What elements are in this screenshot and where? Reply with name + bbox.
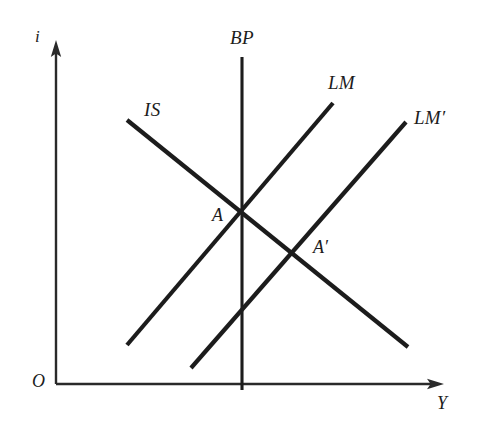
curve-label-bp: BP bbox=[230, 28, 254, 47]
y-axis-group bbox=[51, 40, 61, 384]
point-label-a: A bbox=[212, 206, 223, 224]
diagram-canvas bbox=[0, 0, 478, 433]
curve-is bbox=[127, 120, 408, 347]
point-label-a-prime: A′ bbox=[313, 238, 328, 256]
curve-label-lm-prime: LM′ bbox=[414, 108, 445, 127]
curve-label-lm: LM bbox=[328, 73, 355, 92]
curve-label-is: IS bbox=[144, 100, 160, 119]
curve-lm-prime bbox=[191, 122, 406, 368]
origin-label: O bbox=[32, 372, 45, 390]
x-axis-label: Y bbox=[437, 394, 447, 412]
curve-lm bbox=[127, 103, 333, 345]
x-axis-group bbox=[56, 379, 444, 389]
y-axis-label: i bbox=[35, 28, 40, 45]
isl m-bp-figure: i O Y BP IS LM LM′ A A′ bbox=[0, 0, 478, 433]
